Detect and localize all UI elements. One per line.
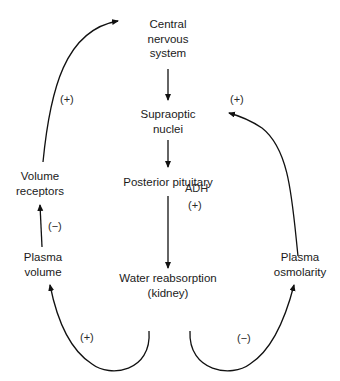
water-line1: Water reabsorption bbox=[113, 271, 223, 286]
node-volume-receptors: Volume receptors bbox=[10, 169, 70, 198]
cns-line1: Central bbox=[138, 17, 198, 32]
osmolarity-to-supraoptic-sign: (+) bbox=[230, 93, 244, 105]
node-central-nervous-system: Central nervous system bbox=[138, 17, 198, 61]
cns-line2: nervous bbox=[138, 32, 198, 47]
plasma-osmolarity-line1: Plasma bbox=[268, 250, 332, 265]
arrow-receptors-to-cns bbox=[43, 21, 118, 162]
supraoptic-line1: Supraoptic bbox=[133, 107, 203, 122]
node-plasma-osmolarity: Plasma osmolarity bbox=[268, 250, 332, 279]
arrow-plasmavolume-to-receptors bbox=[40, 205, 42, 247]
water-to-plasmavolume-sign: (+) bbox=[80, 331, 94, 343]
adh-feedback-diagram: Central nervous system Supraoptic nuclei… bbox=[0, 0, 340, 381]
water-line2: (kidney) bbox=[113, 286, 223, 301]
water-to-osmolarity-sign: (−) bbox=[237, 332, 251, 344]
plasma-osmolarity-line2: osmolarity bbox=[268, 265, 332, 280]
plasma-volume-line1: Plasma bbox=[18, 250, 68, 265]
supraoptic-line2: nuclei bbox=[133, 122, 203, 137]
receptors-line1: Volume bbox=[10, 169, 70, 184]
plasma-volume-line2: volume bbox=[18, 265, 68, 280]
receptors-to-cns-sign: (+) bbox=[60, 93, 74, 105]
adh-sign: (+) bbox=[188, 199, 202, 211]
cns-line3: system bbox=[138, 46, 198, 61]
adh-label: ADH bbox=[185, 182, 208, 194]
plasmavolume-to-receptors-sign: (−) bbox=[48, 220, 62, 232]
node-water-reabsorption: Water reabsorption (kidney) bbox=[113, 271, 223, 300]
node-supraoptic-nuclei: Supraoptic nuclei bbox=[133, 107, 203, 136]
arrow-osmolarity-to-supraoptic bbox=[229, 113, 298, 256]
node-plasma-volume: Plasma volume bbox=[18, 250, 68, 279]
receptors-line2: receptors bbox=[10, 184, 70, 199]
